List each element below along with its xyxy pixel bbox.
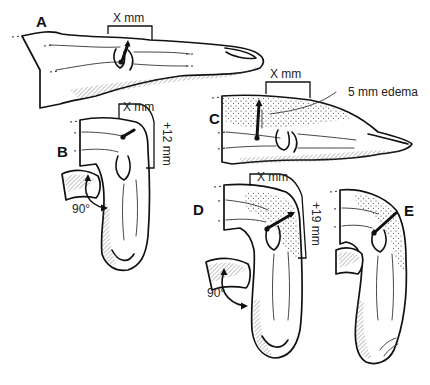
panel-a-measure: X mm (113, 11, 144, 25)
panel-d-extra: +19 mm (309, 202, 323, 246)
panel-c: X mm 5 mm edema C (209, 67, 418, 164)
panel-a: X mm A (12, 11, 263, 108)
panel-b-measure: X mm (123, 100, 154, 114)
panel-c-label: C (209, 110, 220, 127)
panel-d: X mm +19 mm 90° D (193, 170, 323, 358)
panel-b-angle: 90° (72, 202, 90, 216)
panel-d-angle: 90° (207, 286, 225, 300)
panel-c-measure: X mm (270, 67, 301, 81)
panel-a-label: A (36, 13, 47, 30)
panel-e-label: E (404, 202, 414, 219)
panel-d-label: D (193, 201, 204, 218)
panel-d-measure: X mm (257, 170, 288, 184)
panel-e: E (330, 190, 414, 364)
panel-b-label: B (57, 143, 68, 160)
panel-b: X mm +12 mm 90° B (57, 100, 174, 270)
panel-b-extra: +12 mm (160, 122, 174, 166)
panel-c-edema-annotation: 5 mm edema (348, 85, 418, 99)
